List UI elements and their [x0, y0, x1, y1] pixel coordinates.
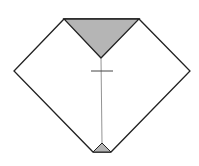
- origami-diagram: [0, 0, 199, 166]
